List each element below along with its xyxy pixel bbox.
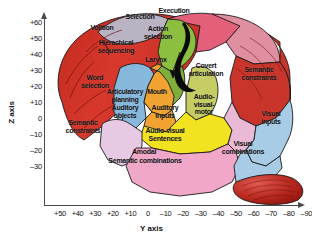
z-tick-label: –10 [16, 130, 42, 139]
y-tick-label: –90 [295, 209, 312, 218]
z-tick-label: –20 [16, 146, 42, 155]
z-tick-label: –30 [16, 162, 42, 171]
y-axis-ticks: +50+40+30+20+100–10–20–30–40–50–60–70–80… [0, 209, 312, 221]
z-tick-label: +40 [16, 50, 42, 59]
region-cerebellum [233, 175, 303, 205]
y-axis-title: Y axis [140, 224, 163, 233]
z-tick-label: +50 [16, 34, 42, 43]
brain-illustration [40, 6, 312, 206]
z-axis-title: Z axis [7, 93, 16, 133]
z-tick-label: +30 [16, 66, 42, 75]
z-tick-label: 0 [16, 114, 42, 123]
z-tick-label: +10 [16, 98, 42, 107]
brain-figure: +60+50+40+30+20+100–10–20–30 +50+40+30+2… [0, 0, 312, 243]
region-covert-articulation [186, 66, 218, 120]
z-tick-label: +20 [16, 82, 42, 91]
z-tick-label: +60 [16, 18, 42, 27]
